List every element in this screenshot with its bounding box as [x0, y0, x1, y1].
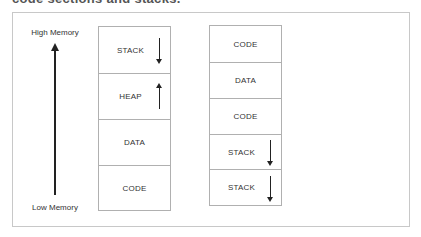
segment-label: DATA: [235, 76, 256, 85]
segment-stack: STACK: [99, 27, 170, 74]
segment-stack: STACK: [210, 135, 281, 170]
segment-label: STACK: [117, 46, 144, 55]
segment-data: DATA: [210, 63, 281, 99]
segment-label: CODE: [234, 112, 258, 121]
low-memory-label: Low Memory: [32, 203, 78, 212]
segment-heap: HEAP: [99, 74, 170, 120]
single-process-memory-layout: STACK HEAP DATA CODE: [98, 26, 171, 211]
segment-label: DATA: [124, 138, 145, 147]
memory-direction-arrow: [54, 50, 56, 195]
segment-code: CODE: [210, 26, 281, 63]
segment-code: CODE: [210, 99, 281, 135]
segment-label: CODE: [234, 40, 258, 49]
multi-segment-memory-layout: CODE DATA CODE STACK STACK: [209, 25, 282, 206]
segment-data: DATA: [99, 120, 170, 166]
down-arrow-icon: [270, 140, 272, 164]
segment-label: STACK: [228, 148, 255, 157]
up-arrow-icon: [159, 85, 161, 109]
heading-clipped: code sections and stacks.: [12, 0, 212, 6]
down-arrow-icon: [270, 176, 272, 200]
high-memory-label: High Memory: [31, 28, 79, 37]
segment-label: STACK: [228, 183, 255, 192]
down-arrow-icon: [159, 38, 161, 62]
segment-label: HEAP: [119, 92, 142, 101]
section-heading: code sections and stacks.: [12, 0, 181, 6]
segment-stack: STACK: [210, 170, 281, 205]
segment-code: CODE: [99, 166, 170, 210]
segment-label: CODE: [123, 184, 147, 193]
